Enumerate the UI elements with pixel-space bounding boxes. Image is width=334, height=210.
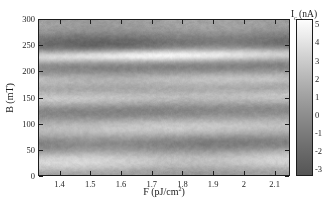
x-tick-mark bbox=[275, 171, 276, 175]
y-tick-label: 50 bbox=[16, 146, 35, 155]
heatmap-image bbox=[39, 20, 289, 175]
colorbar-tick-label: 4 bbox=[315, 38, 319, 47]
colorbar bbox=[296, 19, 313, 176]
x-tick-label: 2 bbox=[242, 180, 246, 189]
y-tick-mark-right bbox=[285, 176, 289, 177]
y-tick-mark-right bbox=[285, 45, 289, 46]
y-tick-mark-right bbox=[285, 98, 289, 99]
colorbar-tick-label: 0 bbox=[315, 110, 319, 119]
x-tick-label: 1.9 bbox=[208, 180, 219, 189]
x-tick-label: 2.1 bbox=[269, 180, 280, 189]
x-tick-mark bbox=[182, 171, 183, 175]
y-tick-label: 0 bbox=[16, 172, 35, 181]
colorbar-tick-label: 5 bbox=[315, 20, 319, 29]
colorbar-tick-label: 2 bbox=[315, 74, 319, 83]
x-tick-label: 1.6 bbox=[116, 180, 127, 189]
y-tick-mark bbox=[39, 176, 43, 177]
y-tick-mark bbox=[39, 98, 43, 99]
x-tick-mark-top bbox=[275, 20, 276, 24]
y-tick-mark bbox=[39, 124, 43, 125]
colorbar-tick-label: 3 bbox=[315, 56, 319, 65]
x-tick-mark bbox=[90, 171, 91, 175]
x-tick-mark-top bbox=[121, 20, 122, 24]
y-tick-mark-right bbox=[285, 150, 289, 151]
y-tick-mark bbox=[39, 150, 43, 151]
y-tick-label: 200 bbox=[16, 67, 35, 76]
y-tick-mark bbox=[39, 45, 43, 46]
x-tick-mark-top bbox=[60, 20, 61, 24]
y-tick-label: 250 bbox=[16, 41, 35, 50]
x-tick-mark bbox=[121, 171, 122, 175]
colorbar-tick-label: -3 bbox=[315, 165, 322, 174]
heatmap-figure: 1.41.51.61.71.81.922.1 05010015020025030… bbox=[0, 0, 334, 210]
x-tick-mark-top bbox=[152, 20, 153, 24]
y-tick-mark-right bbox=[285, 19, 289, 20]
y-tick-mark bbox=[39, 71, 43, 72]
colorbar-gradient bbox=[297, 20, 312, 175]
x-tick-mark-top bbox=[213, 20, 214, 24]
x-tick-mark bbox=[152, 171, 153, 175]
colorbar-tick-label: 1 bbox=[315, 92, 319, 101]
x-tick-label: 1.5 bbox=[85, 180, 96, 189]
x-axis-title-main: F (pJ/cm bbox=[143, 186, 178, 197]
x-axis-title-close: ) bbox=[182, 186, 185, 197]
y-tick-label: 150 bbox=[16, 93, 35, 102]
y-axis-title: B (mT) bbox=[4, 83, 15, 113]
x-tick-mark-top bbox=[244, 20, 245, 24]
colorbar-tick-label: -1 bbox=[315, 128, 322, 137]
x-tick-mark bbox=[60, 171, 61, 175]
colorbar-title-unit: (nA) bbox=[297, 9, 317, 19]
y-tick-mark-right bbox=[285, 124, 289, 125]
x-tick-label: 1.4 bbox=[54, 180, 65, 189]
plot-area bbox=[38, 19, 290, 176]
y-tick-mark bbox=[39, 19, 43, 20]
x-axis-title: F (pJ/cm2) bbox=[143, 185, 185, 197]
x-tick-mark bbox=[213, 171, 214, 175]
y-tick-mark-right bbox=[285, 71, 289, 72]
x-tick-mark-top bbox=[182, 20, 183, 24]
x-tick-mark bbox=[244, 171, 245, 175]
y-tick-label: 100 bbox=[16, 119, 35, 128]
colorbar-tick-label: -2 bbox=[315, 146, 322, 155]
y-tick-label: 300 bbox=[16, 15, 35, 24]
x-tick-mark-top bbox=[90, 20, 91, 24]
